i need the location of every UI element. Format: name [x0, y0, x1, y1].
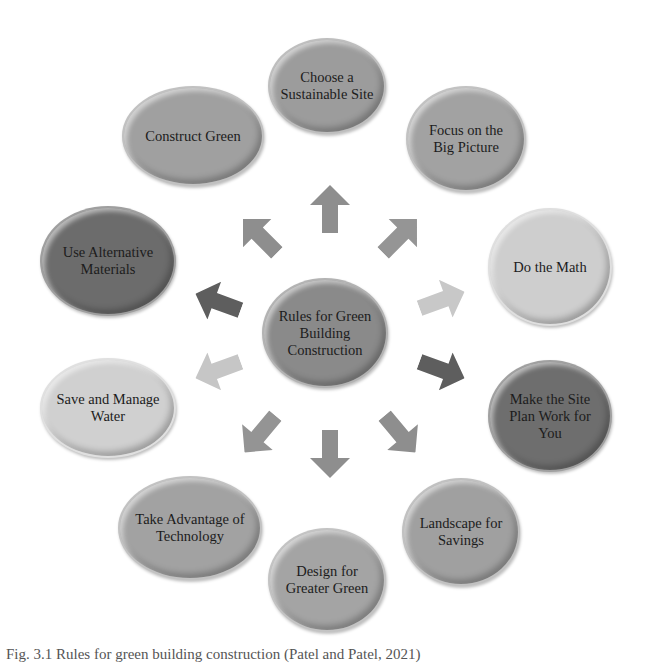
node-label: Save and Manage Water [42, 391, 174, 425]
node-label: Make the Site Plan Work for You [490, 391, 610, 442]
node-focus-big-picture: Focus on the Big Picture [406, 86, 526, 192]
node-use-alternative-materials: Use Alternative Materials [40, 206, 176, 316]
node-take-advantage-technology: Take Advantage of Technology [118, 476, 262, 580]
node-label: Use Alternative Materials [42, 244, 174, 278]
arrow-left-icon [189, 275, 248, 329]
arrow-up-icon [310, 185, 350, 233]
node-do-the-math: Do the Math [488, 208, 612, 326]
arrow-up-left-icon [229, 205, 291, 267]
arrow-right-icon [413, 273, 472, 327]
arrow-down-left-icon [229, 403, 290, 465]
center-node: Rules for Green Building Construction [262, 278, 388, 388]
node-design-greater-green: Design for Greater Green [268, 528, 386, 632]
arrow-down-icon [310, 430, 350, 478]
figure-caption: Fig. 3.1 Rules for green building constr… [0, 646, 653, 666]
node-label: Construct Green [135, 128, 250, 145]
node-label: Take Advantage of Technology [120, 511, 260, 545]
node-label: Landscape for Savings [404, 515, 518, 549]
node-make-site-plan-work: Make the Site Plan Work for You [488, 360, 612, 472]
center-label: Rules for Green Building Construction [264, 308, 386, 359]
node-label: Do the Math [503, 259, 596, 276]
node-choose-sustainable-site: Choose a Sustainable Site [268, 38, 386, 134]
node-label: Focus on the Big Picture [408, 122, 524, 156]
arrow-down-right-icon [369, 403, 430, 465]
arrow-up-right-icon [369, 205, 431, 267]
node-label: Design for Greater Green [270, 563, 384, 597]
arrow-left-icon [189, 343, 248, 397]
node-construct-green: Construct Green [122, 86, 264, 186]
arrow-down-right-icon [413, 343, 472, 397]
node-label: Choose a Sustainable Site [270, 69, 384, 103]
node-save-manage-water: Save and Manage Water [40, 358, 176, 458]
node-landscape-savings: Landscape for Savings [402, 478, 520, 586]
